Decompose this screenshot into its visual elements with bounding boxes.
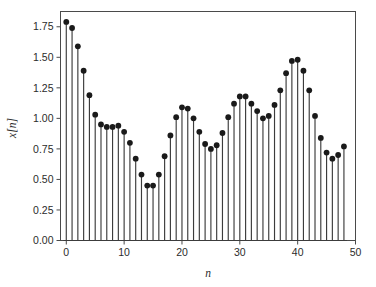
y-tick-label: 1.50 — [33, 51, 54, 63]
stem-marker — [225, 114, 231, 120]
stem-marker — [75, 43, 81, 49]
stem-marker — [162, 153, 168, 159]
y-tick-label: 0.25 — [33, 204, 54, 216]
chart-canvas: 0.000.250.500.751.001.251.501.75 0102030… — [0, 0, 376, 287]
stem-marker — [266, 113, 272, 119]
stem-marker — [272, 102, 278, 108]
stem-marker — [121, 129, 127, 135]
stem-marker — [214, 142, 220, 148]
stem-marker — [202, 141, 208, 147]
y-tick-label: 1.00 — [33, 112, 54, 124]
stem-marker — [312, 113, 318, 119]
stem-marker — [208, 146, 214, 152]
stem-marker — [196, 129, 202, 135]
stem-marker — [144, 183, 150, 189]
stem-marker — [92, 112, 98, 118]
stem-marker — [87, 92, 93, 98]
stem-marker — [156, 172, 162, 178]
stem-marker — [248, 101, 254, 107]
x-tick-label: 0 — [63, 246, 69, 258]
y-axis-ticks: 0.000.250.500.751.001.251.501.75 — [33, 20, 60, 246]
y-tick-label: 1.25 — [33, 82, 54, 94]
stem-marker — [115, 123, 121, 129]
stem-marker — [173, 114, 179, 120]
stem-marker — [81, 68, 87, 74]
stem-marker — [150, 183, 156, 189]
y-tick-label: 1.75 — [33, 20, 54, 32]
stem-marker — [283, 70, 289, 76]
y-tick-label: 0.75 — [33, 143, 54, 155]
stem-marker — [260, 115, 266, 121]
stem-marker — [277, 87, 283, 93]
y-tick-label: 0.50 — [33, 173, 54, 185]
x-axis-label: n — [205, 267, 211, 279]
stem-plot-figure: 0.000.250.500.751.001.251.501.75 0102030… — [0, 0, 376, 287]
stem-marker — [318, 135, 324, 141]
stem-marker — [301, 68, 307, 74]
x-axis-ticks: 01020304050 — [63, 241, 361, 258]
stem-marker — [191, 115, 197, 121]
x-tick-label: 20 — [176, 246, 188, 258]
stem-marker — [289, 58, 295, 64]
stem-marker — [324, 150, 330, 156]
x-tick-label: 10 — [118, 246, 130, 258]
y-tick-label: 0.00 — [33, 234, 54, 246]
stem-marker — [69, 25, 75, 31]
stem-marker — [63, 19, 69, 25]
x-tick-label: 30 — [234, 246, 246, 258]
stem-marker — [254, 108, 260, 114]
stem-marker — [139, 172, 145, 178]
stem-marker — [341, 144, 347, 150]
x-tick-label: 50 — [350, 246, 362, 258]
x-tick-label: 40 — [292, 246, 304, 258]
stem-marker — [306, 87, 312, 93]
stem-marker — [185, 106, 191, 112]
stem-marker — [329, 156, 335, 162]
stem-marker — [231, 101, 237, 107]
stem-marker — [98, 122, 104, 128]
stem-marker — [220, 130, 226, 136]
stem-marker — [168, 133, 174, 139]
stem-marker — [127, 140, 133, 146]
stem-marker — [133, 156, 139, 162]
stem-marker — [243, 93, 249, 99]
stem-marker — [335, 152, 341, 158]
stem-marker — [104, 124, 110, 130]
stem-marker — [179, 104, 185, 110]
stem-marker — [295, 57, 301, 63]
stem-marker — [237, 93, 243, 99]
stem-marker — [110, 124, 116, 130]
y-axis-label: x[n] — [6, 118, 18, 139]
